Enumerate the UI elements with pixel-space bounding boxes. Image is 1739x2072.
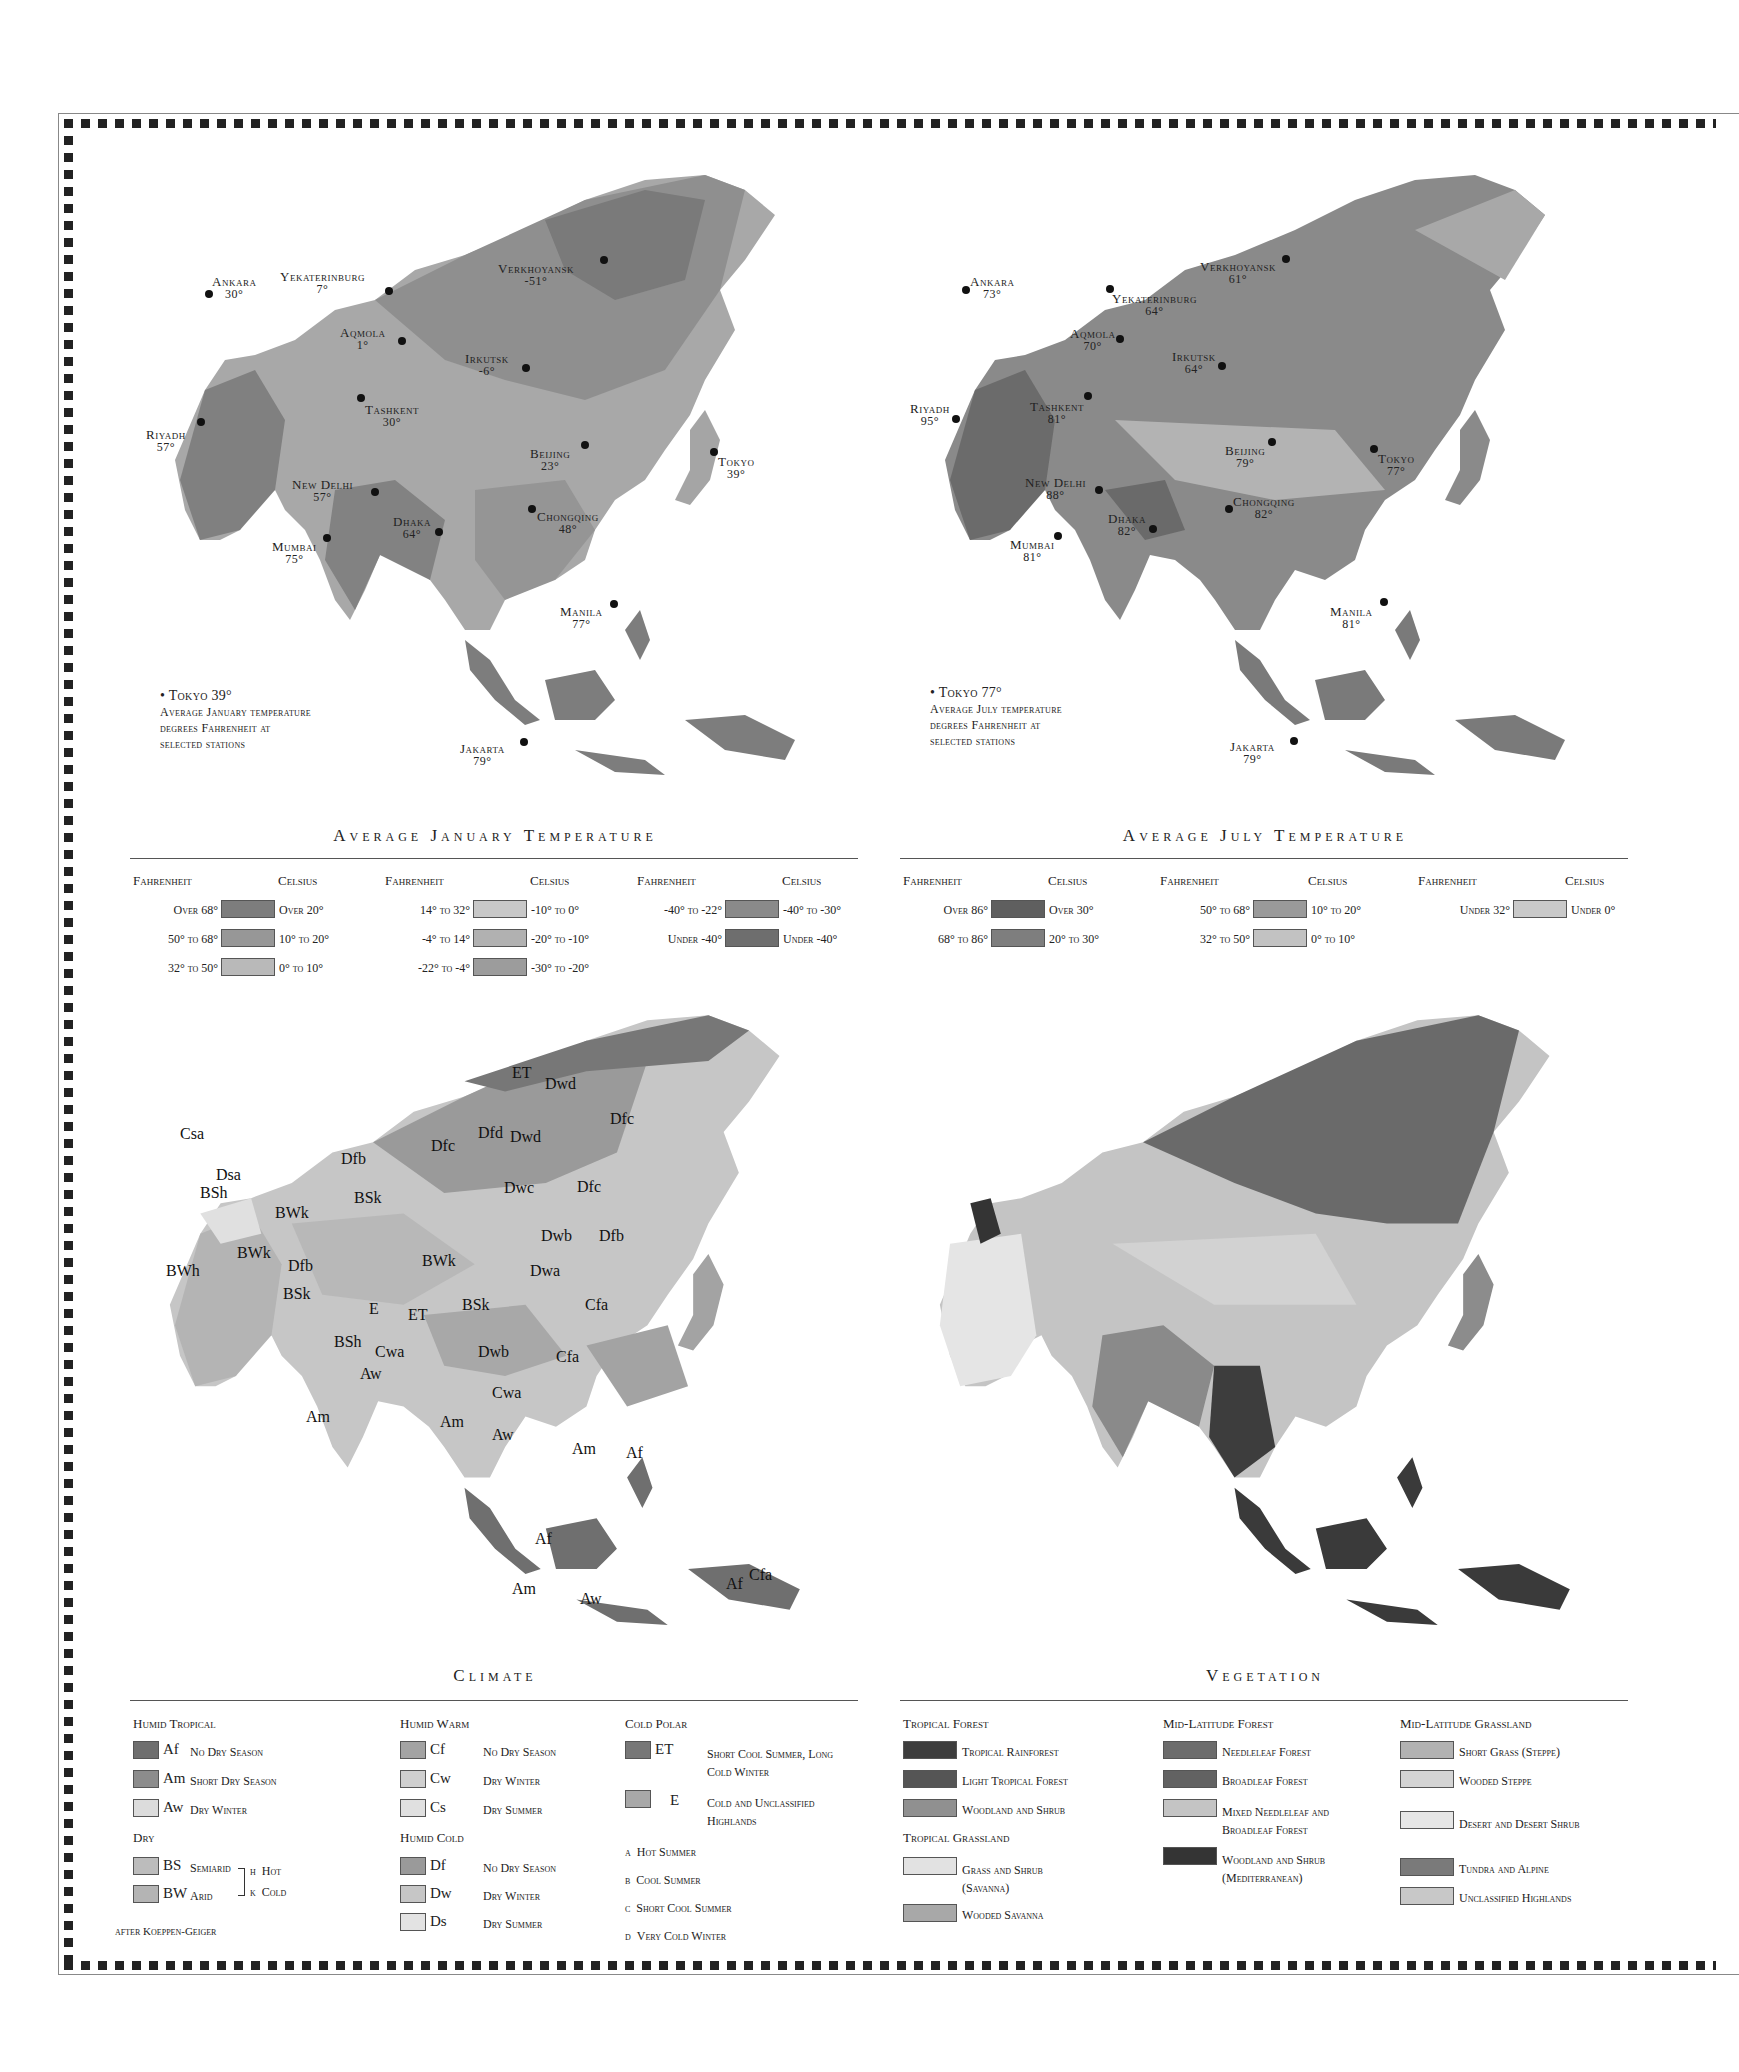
station-dot-aqmola [1116, 335, 1124, 343]
vegetation-map [895, 1000, 1635, 1630]
station-dot-riyadh [952, 415, 960, 423]
station-yekaterinburg: Yekaterinburg7° [280, 270, 365, 296]
legend-swatch [1400, 1741, 1454, 1759]
july-map-note: • Tokyo 77° Average July temperature deg… [930, 685, 1062, 749]
station-tokyo: Tokyo39° [718, 455, 754, 481]
legend-swatch [400, 1857, 426, 1875]
legend-c: -40° to -30° [783, 903, 841, 918]
legend-f: 32° to 50° [140, 961, 218, 976]
vegetation-legend-title: Vegetation [900, 1666, 1630, 1686]
legend-swatch [133, 1885, 159, 1903]
veg-group-mid-latitude-forest: Mid-Latitude Forest [1163, 1716, 1273, 1732]
station-dot-mumbai [1054, 532, 1062, 540]
legend-c: Under 0° [1571, 903, 1615, 918]
station-dhaka: Dhaka82° [1108, 512, 1146, 538]
station-mumbai: Mumbai81° [1010, 538, 1055, 564]
station-tashkent: Tashkent30° [365, 403, 419, 429]
station-dhaka: Dhaka64° [393, 515, 431, 541]
legend-f: -22° to -4° [390, 961, 470, 976]
station-dot-tokyo [710, 448, 718, 456]
vegetation-legend-rule [900, 1700, 1628, 1701]
station-new-delhi: New Delhi57° [292, 478, 353, 504]
station-dot-beijing [1268, 438, 1276, 446]
climate-group-cold-polar: Cold Polar [625, 1716, 687, 1732]
climate-source: after Koeppen-Geiger [115, 1925, 216, 1937]
july-legend-rule [900, 858, 1628, 859]
legend-swatch [133, 1741, 159, 1759]
station-dot-ankara [962, 286, 970, 294]
station-irkutsk: Irkutsk-6° [465, 352, 509, 378]
station-ankara: Ankara73° [970, 275, 1014, 301]
climate-group-humid-tropical: Humid Tropical [133, 1716, 216, 1732]
legend-c: 10° to 20° [279, 932, 329, 947]
legend-swatch [473, 900, 527, 918]
station-dot-mumbai [323, 534, 331, 542]
checkered-border-bottom [64, 1961, 1716, 1970]
station-dot-beijing [581, 441, 589, 449]
legend-swatch [1253, 900, 1307, 918]
station-verkhoyansk: Verkhoyansk61° [1200, 260, 1276, 286]
legend-swatch [991, 929, 1045, 947]
legend-swatch [725, 929, 779, 947]
station-dot-manila [610, 600, 618, 608]
january-legend-rule [130, 858, 858, 859]
station-ankara: Ankara30° [212, 275, 256, 301]
checkered-border-top [64, 119, 1716, 128]
legend-c: 0° to 10° [279, 961, 323, 976]
station-dot-jakarta [520, 738, 528, 746]
legend-swatch [1400, 1858, 1454, 1876]
station-riyadh: Riyadh95° [910, 402, 950, 428]
legend-c: Over 30° [1049, 903, 1093, 918]
legend-swatch [1163, 1847, 1217, 1865]
station-new-delhi: New Delhi88° [1025, 476, 1086, 502]
legend-swatch [1400, 1887, 1454, 1905]
legend-swatch [1513, 900, 1567, 918]
legend-c: -20° to -10° [531, 932, 589, 947]
legend-swatch [473, 958, 527, 976]
station-aqmola: Aqmola1° [340, 326, 385, 352]
legend-swatch [473, 929, 527, 947]
legend-f: Under 32° [1430, 903, 1510, 918]
station-dot-tashkent [1084, 392, 1092, 400]
station-dot-irkutsk [1218, 362, 1226, 370]
station-dot-tokyo [1370, 445, 1378, 453]
legend-swatch [625, 1790, 651, 1808]
legend-swatch [221, 958, 275, 976]
legend-swatch [1163, 1741, 1217, 1759]
station-beijing: Beijing23° [530, 447, 570, 473]
legend-swatch [903, 1770, 957, 1788]
legend-f: -4° to 14° [390, 932, 470, 947]
legend-f: -40° to -22° [630, 903, 722, 918]
station-dot-verkhoyansk [600, 256, 608, 264]
legend-c: -10° to 0° [531, 903, 579, 918]
legend-f: 50° to 68° [1170, 903, 1250, 918]
legend-swatch [400, 1741, 426, 1759]
station-dot-new-delhi [371, 488, 379, 496]
climate-group-dry: Dry [133, 1830, 154, 1846]
legend-f: 50° to 68° [140, 932, 218, 947]
station-dot-irkutsk [522, 364, 530, 372]
veg-group-tropical-forest: Tropical Forest [903, 1716, 988, 1732]
legend-swatch [400, 1770, 426, 1788]
veg-group-mid-latitude-grassland: Mid-Latitude Grassland [1400, 1716, 1531, 1732]
legend-swatch [903, 1857, 957, 1875]
legend-swatch [991, 900, 1045, 918]
station-dot-dhaka [435, 528, 443, 536]
station-jakarta: Jakarta79° [1230, 740, 1275, 766]
climate-legend-title: Climate [130, 1666, 860, 1686]
legend-c: 20° to 30° [1049, 932, 1099, 947]
climate-group-humid-cold: Humid Cold [400, 1830, 464, 1846]
veg-group-tropical-grassland: Tropical Grassland [903, 1830, 1010, 1846]
station-aqmola: Aqmola70° [1070, 327, 1115, 353]
station-dot-manila [1380, 598, 1388, 606]
station-dot-yekaterinburg [385, 287, 393, 295]
legend-swatch [903, 1741, 957, 1759]
legend-swatch [133, 1857, 159, 1875]
legend-f: 68° to 86° [910, 932, 988, 947]
station-dot-verkhoyansk [1282, 255, 1290, 263]
station-chongqing: Chongqing48° [537, 510, 599, 536]
legend-swatch [221, 900, 275, 918]
station-mumbai: Mumbai75° [272, 540, 317, 566]
legend-swatch [221, 929, 275, 947]
legend-f: 14° to 32° [390, 903, 470, 918]
